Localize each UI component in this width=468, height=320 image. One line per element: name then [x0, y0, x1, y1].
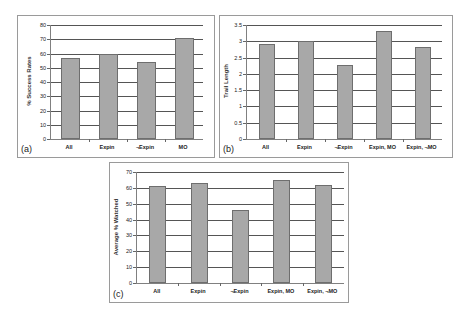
y-tick-mark [47, 54, 50, 55]
chart-panel-a: 01020304050607080AllExpin¬ExpinMO% Succe… [17, 15, 215, 158]
x-tick-mark [303, 283, 304, 286]
bar-expin-mo [315, 185, 332, 283]
bar-all [149, 186, 166, 283]
bar-expin [99, 54, 118, 140]
y-tick-label: 60 [114, 185, 132, 191]
bar--expin [337, 65, 353, 139]
y-tick-mark [133, 188, 136, 189]
x-tick-mark [127, 139, 128, 142]
y-tick-mark [47, 139, 50, 140]
bar-mo [175, 38, 194, 139]
gridline [247, 25, 442, 26]
y-tick-mark [47, 25, 50, 26]
y-tick-mark [243, 25, 246, 26]
y-tick-label: 70 [114, 169, 132, 175]
y-tick-label: 10 [114, 264, 132, 270]
gridline [247, 41, 442, 42]
bar--expin [137, 62, 156, 139]
x-category-label: Expin, MO [267, 288, 294, 294]
y-tick-mark [243, 90, 246, 91]
y-tick-mark [47, 125, 50, 126]
y-tick-mark [47, 68, 50, 69]
bar-all [61, 58, 80, 139]
y-tick-mark [243, 106, 246, 107]
x-tick-mark [178, 283, 179, 286]
x-category-label: Expin [297, 144, 312, 150]
y-tick-mark [243, 139, 246, 140]
plot-area [246, 25, 442, 140]
x-category-label: Expin [191, 288, 206, 294]
y-tick-mark [133, 251, 136, 252]
gridline [247, 58, 442, 59]
y-tick-mark [243, 74, 246, 75]
x-category-label: Expin, MO [369, 144, 396, 150]
y-tick-label: 3 [224, 38, 242, 44]
panel-label: (a) [21, 144, 32, 154]
x-tick-mark [364, 139, 365, 142]
x-category-label: Expin, ¬MO [307, 288, 337, 294]
y-tick-label: 0 [28, 136, 46, 142]
gridline [137, 172, 344, 173]
y-tick-mark [133, 235, 136, 236]
y-tick-mark [133, 204, 136, 205]
chart-panel-b: 00.511.522.533.5AllExpin¬ExpinExpin, MOE… [219, 15, 453, 158]
y-tick-mark [243, 41, 246, 42]
y-tick-label: 2.5 [224, 55, 242, 61]
y-tick-label: 0 [114, 280, 132, 286]
x-tick-mark [89, 139, 90, 142]
y-tick-label: 80 [28, 22, 46, 28]
x-tick-mark [403, 139, 404, 142]
x-tick-mark [325, 139, 326, 142]
y-tick-label: 10 [28, 122, 46, 128]
chart-panel-c: 010203040506070AllExpin¬ExpinExpin, MOEx… [109, 162, 349, 303]
x-category-label: Expin [100, 144, 115, 150]
y-tick-label: 0.5 [224, 120, 242, 126]
y-tick-label: 70 [28, 36, 46, 42]
x-tick-mark [286, 139, 287, 142]
y-axis-label: % Success Rates [25, 56, 31, 105]
x-category-label: All [262, 144, 269, 150]
y-tick-mark [47, 96, 50, 97]
bar--expin [232, 210, 249, 283]
x-category-label: ¬Expin [334, 144, 352, 150]
y-axis-label: Trail Length [223, 64, 229, 98]
plot-area [136, 172, 344, 284]
gridline [137, 204, 344, 205]
x-tick-mark [220, 283, 221, 286]
y-tick-mark [47, 111, 50, 112]
y-tick-mark [243, 58, 246, 59]
y-tick-mark [133, 220, 136, 221]
y-axis-label: Average % Watched [113, 198, 119, 255]
panel-label: (c) [113, 289, 124, 299]
gridline [137, 188, 344, 189]
panel-label: (b) [223, 144, 234, 154]
y-tick-label: 0 [224, 136, 242, 142]
y-tick-mark [47, 82, 50, 83]
x-category-label: ¬Expin [136, 144, 154, 150]
x-category-label: All [65, 144, 72, 150]
y-tick-mark [47, 39, 50, 40]
x-category-label: MO [179, 144, 188, 150]
y-tick-label: 1 [224, 103, 242, 109]
bar-expin-mo [376, 31, 392, 139]
y-tick-mark [243, 123, 246, 124]
bar-expin-mo [273, 180, 290, 283]
y-tick-mark [133, 172, 136, 173]
bar-all [259, 44, 275, 139]
x-tick-mark [165, 139, 166, 142]
bar-expin [298, 41, 314, 139]
y-tick-label: 3.5 [224, 22, 242, 28]
bar-expin [191, 183, 208, 283]
plot-area [50, 25, 203, 140]
x-tick-mark [261, 283, 262, 286]
bar-expin-mo [415, 47, 431, 139]
x-category-label: All [153, 288, 160, 294]
x-category-label: Expin, ¬MO [406, 144, 436, 150]
y-tick-label: 20 [28, 108, 46, 114]
x-category-label: ¬Expin [230, 288, 248, 294]
gridline [51, 25, 203, 26]
y-tick-mark [133, 283, 136, 284]
y-tick-mark [133, 267, 136, 268]
